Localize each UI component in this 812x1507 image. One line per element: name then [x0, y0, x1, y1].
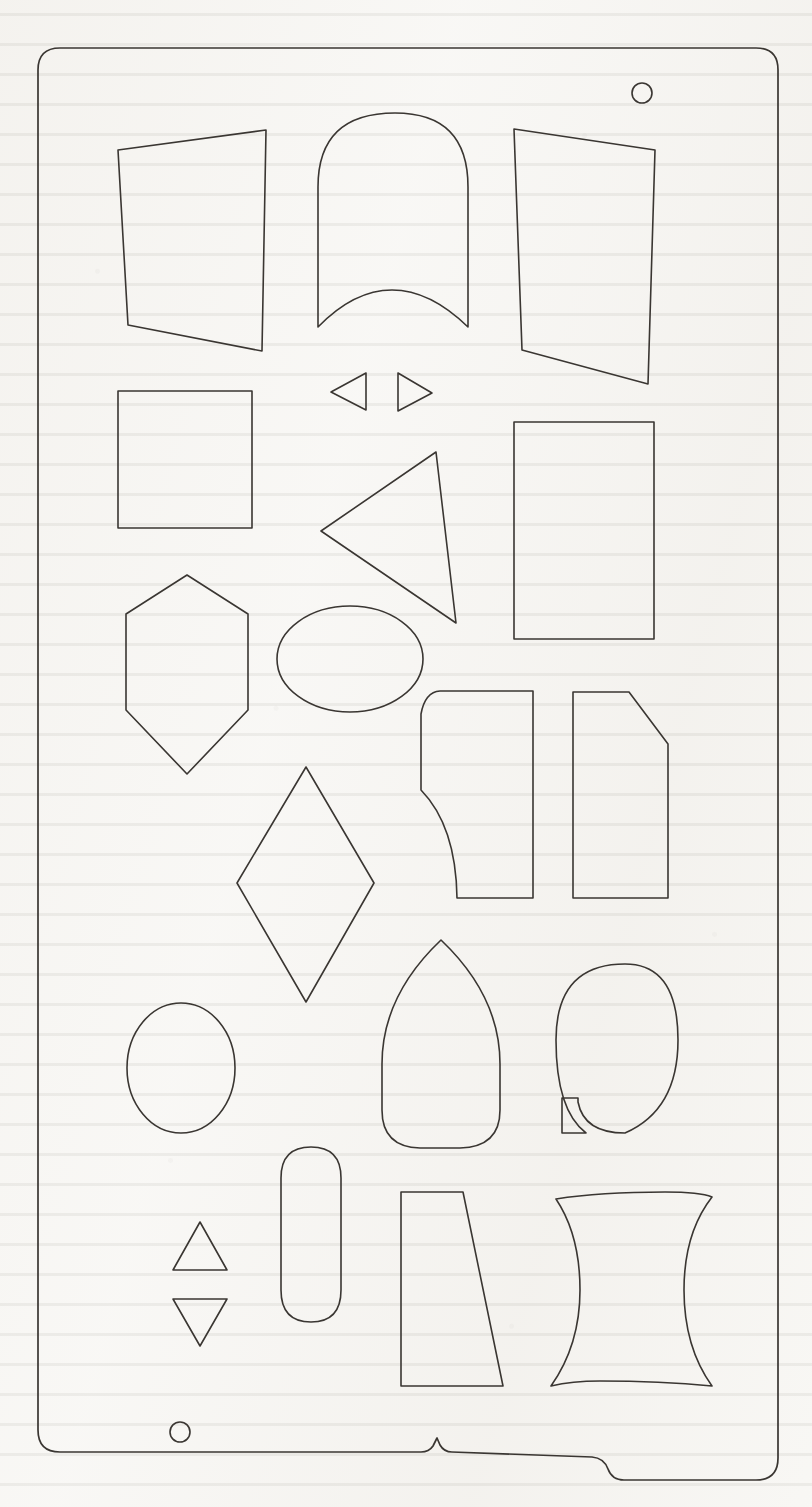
shape-stadium-pill-vertical — [281, 1147, 341, 1322]
stencil-body-outline — [38, 48, 778, 1480]
shape-ellipse-upright-left — [127, 1003, 235, 1133]
shape-chamfered-panel-right — [573, 692, 668, 898]
shape-triangle-down-small — [173, 1299, 227, 1346]
shape-scurve-panel-left — [421, 691, 533, 898]
shape-large-triangle-left — [321, 452, 456, 623]
hanging-hole-bottom-left — [170, 1422, 190, 1442]
shape-hexagon-vertical — [126, 575, 248, 774]
shape-small-triangle-left — [331, 373, 366, 410]
shape-square-left — [118, 391, 252, 528]
shape-tapered-quad-bottom — [401, 1192, 503, 1386]
shape-triangle-up-small — [173, 1222, 227, 1270]
hanging-hole-top-right — [632, 83, 652, 103]
stencil-sheet — [0, 0, 812, 1507]
shape-rectangle-right — [514, 422, 654, 639]
shape-rhombus-diamond — [237, 767, 374, 1002]
stencil-drawing — [0, 0, 812, 1507]
shape-quadrilateral-right-top — [514, 129, 655, 384]
shape-pointed-arch — [382, 940, 500, 1148]
shape-ellipse-horizontal — [277, 606, 423, 712]
shape-oval-with-notch — [556, 964, 678, 1133]
shape-wave-scurve-bottom — [551, 1192, 712, 1386]
shape-tombstone-concave-base — [318, 113, 468, 327]
shape-small-triangle-right — [398, 373, 432, 411]
shape-trapezoid-left-top — [118, 130, 266, 351]
